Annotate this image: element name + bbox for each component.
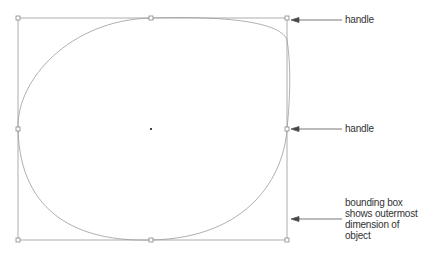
label-handle-top: handle xyxy=(345,14,374,25)
blob-shape xyxy=(18,18,290,241)
arrow-head-bottom-icon xyxy=(291,217,299,222)
handle-bottom-middle[interactable] xyxy=(149,238,153,242)
label-bounding-box-line-1: bounding box xyxy=(345,197,425,208)
label-bounding-box-line-2: shows outermost xyxy=(345,208,425,219)
handle-top-right[interactable] xyxy=(285,16,289,20)
arrow-head-middle-icon xyxy=(291,127,299,132)
label-handle-middle: handle xyxy=(345,123,374,134)
label-bounding-box-line-3: dimension of object xyxy=(345,219,425,241)
center-point xyxy=(150,128,152,130)
handle-bottom-right[interactable] xyxy=(285,238,289,242)
handle-top-middle[interactable] xyxy=(149,16,153,20)
handle-middle-left[interactable] xyxy=(16,127,20,131)
handle-bottom-left[interactable] xyxy=(16,238,20,242)
arrow-head-top-icon xyxy=(291,18,299,23)
handle-middle-right[interactable] xyxy=(285,127,289,131)
label-bounding-box: bounding box shows outermost dimension o… xyxy=(345,197,425,241)
handle-top-left[interactable] xyxy=(16,16,20,20)
